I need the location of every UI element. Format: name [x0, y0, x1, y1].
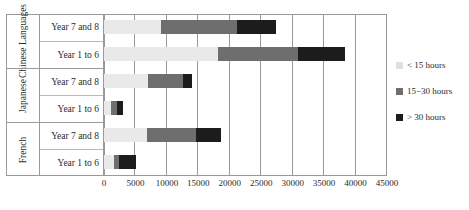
bar-segment[interactable] — [161, 20, 237, 34]
x-tick-label-35000: 35000 — [313, 178, 336, 188]
stacked-bar[interactable] — [104, 101, 123, 115]
bar-segment[interactable] — [104, 47, 218, 61]
bar-band — [104, 122, 387, 149]
legend-swatch-icon — [396, 88, 403, 95]
row-label-chinese-year7and8: Year 7 and 8 — [40, 14, 103, 41]
legend-swatch-icon — [396, 114, 403, 121]
bar-band — [104, 14, 387, 41]
x-tick-label-25000: 25000 — [250, 178, 273, 188]
x-tick-label-5000: 5000 — [126, 178, 144, 188]
legend-item[interactable]: > 30 hours — [396, 112, 468, 122]
stacked-bar[interactable] — [104, 155, 136, 169]
legend-label: 15−30 hours — [407, 86, 452, 96]
bar-segment[interactable] — [237, 20, 276, 34]
legend-label: > 30 hours — [407, 112, 446, 122]
bar-segment[interactable] — [218, 47, 298, 61]
group-label-text: Japanese — [17, 79, 28, 113]
group-rows: Year 7 and 8 Year 1 to 6 — [39, 14, 103, 68]
legend-swatch-icon — [396, 62, 403, 69]
bar-segment[interactable] — [147, 128, 196, 142]
plot-area — [104, 14, 387, 176]
bar-segment[interactable] — [196, 128, 221, 142]
bar-band — [104, 149, 387, 176]
group-label-french: French — [6, 123, 39, 176]
x-tick-label-20000: 20000 — [219, 178, 242, 188]
category-axis: Chinese Languages Year 7 and 8 Year 1 to… — [6, 14, 104, 176]
bar-segment[interactable] — [104, 101, 111, 115]
bar-segment[interactable] — [183, 74, 192, 88]
stacked-bar[interactable] — [104, 20, 276, 34]
bar-segment[interactable] — [148, 74, 183, 88]
stacked-bar-chart: Chinese Languages Year 7 and 8 Year 1 to… — [0, 0, 469, 210]
group-label-japanese: Japanese — [6, 69, 39, 122]
x-tick-label-45000: 45000 — [376, 178, 399, 188]
bar-band — [104, 95, 387, 122]
category-group: Japanese Year 7 and 8 Year 1 to 6 — [6, 68, 103, 122]
row-label-japanese-year7and8: Year 7 and 8 — [40, 69, 103, 95]
value-axis: 0500010000150002000025000300003500040000… — [0, 178, 469, 194]
bar-segment[interactable] — [117, 101, 123, 115]
legend-item[interactable]: < 15 hours — [396, 60, 468, 70]
legend-label: < 15 hours — [407, 60, 446, 70]
x-tick-label-15000: 15000 — [187, 178, 210, 188]
group-label-text: Chinese Languages — [17, 4, 28, 78]
group-label-text: French — [17, 136, 28, 162]
legend: < 15 hours15−30 hours> 30 hours — [396, 60, 468, 138]
stacked-bar[interactable] — [104, 47, 345, 61]
bar-segment[interactable] — [104, 74, 148, 88]
x-tick-label-30000: 30000 — [281, 178, 304, 188]
bar-segment[interactable] — [119, 155, 136, 169]
row-label-french-year1to6: Year 1 to 6 — [40, 149, 103, 176]
group-rows: Year 7 and 8 Year 1 to 6 — [39, 69, 103, 122]
row-label-chinese-year1to6: Year 1 to 6 — [40, 41, 103, 69]
group-rows: Year 7 and 8 Year 1 to 6 — [39, 123, 103, 176]
category-group: French Year 7 and 8 Year 1 to 6 — [6, 122, 103, 176]
bar-band — [104, 41, 387, 68]
row-label-japanese-year1to6: Year 1 to 6 — [40, 95, 103, 122]
x-tick-label-0: 0 — [102, 178, 107, 188]
bar-segment[interactable] — [104, 20, 161, 34]
bar-segment[interactable] — [298, 47, 345, 61]
bar-segment[interactable] — [104, 155, 114, 169]
stacked-bar[interactable] — [104, 128, 221, 142]
stacked-bar[interactable] — [104, 74, 192, 88]
legend-item[interactable]: 15−30 hours — [396, 86, 468, 96]
x-tick-label-40000: 40000 — [344, 178, 367, 188]
bar-band — [104, 68, 387, 95]
group-label-chinese-languages: Chinese Languages — [6, 14, 39, 68]
category-group: Chinese Languages Year 7 and 8 Year 1 to… — [6, 14, 103, 68]
bars-layer — [104, 14, 387, 176]
x-tick-label-10000: 10000 — [156, 178, 179, 188]
bar-segment[interactable] — [104, 128, 147, 142]
row-label-french-year7and8: Year 7 and 8 — [40, 123, 103, 149]
